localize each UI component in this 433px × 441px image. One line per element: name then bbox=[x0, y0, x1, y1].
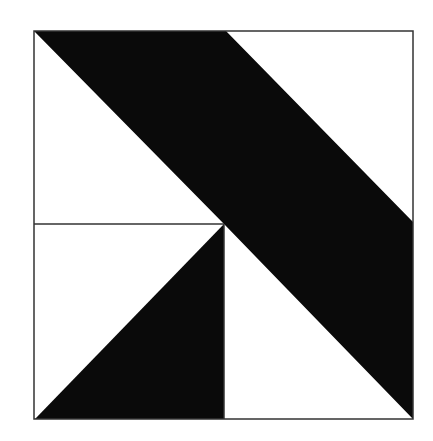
geometric-figure: · · ·· · bbox=[0, 0, 433, 441]
cropped-caption-text: · · ·· · bbox=[40, 0, 107, 7]
figure-canvas bbox=[0, 0, 433, 441]
